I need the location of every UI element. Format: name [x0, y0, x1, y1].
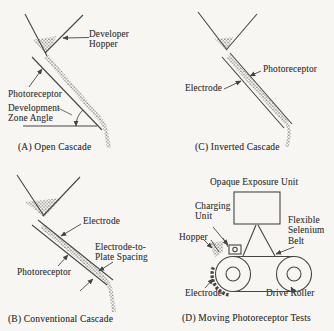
spacing-arrow-lower [80, 279, 93, 291]
developer-pile-b [25, 198, 62, 217]
opaque-exposure-unit-box [234, 192, 280, 224]
label-electrode-b: Electrode [83, 216, 120, 226]
caption-d: (D) Moving Photoreceptor Tests [182, 313, 311, 323]
development-zone-leader [58, 108, 72, 115]
hopper-particles-d [209, 241, 223, 257]
left-roller-axle [226, 267, 240, 281]
hopper-right-wall-a [45, 15, 83, 53]
electrode-arrow-c [224, 81, 241, 89]
label-developer-hopper: Developer Hopper [89, 29, 129, 50]
development-zone-angle-arc [76, 110, 83, 126]
light-path-right [258, 225, 275, 256]
label-photoreceptor-b: Photoreceptor [17, 267, 71, 277]
label-electrode-d: Electrode [185, 288, 222, 298]
label-electrode-to-plate-spacing: Electrode-to- Plate Spacing [95, 242, 148, 263]
developer-hopper-arrow [63, 38, 89, 39]
photoreceptor-arrow-a [29, 69, 42, 87]
light-path-left [243, 225, 256, 256]
caption-b: (B) Conventional Cascade [8, 314, 113, 324]
developer-pile-c [215, 37, 233, 51]
label-flexible-selenium-belt: Flexible Selenium Belt [288, 215, 324, 246]
photoreceptor-arrow-c [250, 71, 261, 76]
charging-unit-dot [233, 247, 237, 251]
hopper-right-wall-c [227, 14, 257, 49]
drive-roller-circle [277, 257, 312, 292]
falling-stream-b [103, 277, 114, 312]
falling-stream-a [99, 118, 109, 148]
caption-a: (A) Open Cascade [18, 142, 91, 152]
electrode-arrow-b [61, 224, 81, 236]
label-opaque-exposure-unit: Opaque Exposure Unit [210, 177, 298, 187]
label-drive-roller: Drive Roller [266, 288, 315, 298]
label-photoreceptor-a: Photoreceptor [8, 89, 62, 99]
drive-roller-axle [287, 267, 301, 281]
label-charging-unit: Charging Unit [195, 201, 231, 222]
electrode-arrow-d [205, 279, 213, 288]
label-electrode-c: Electrode [185, 83, 222, 93]
caption-c: (C) Inverted Cascade [195, 142, 280, 152]
spacing-arrow-upper [99, 262, 113, 271]
panel-c-inverted-cascade [198, 12, 292, 147]
label-development-zone-angle: Development Zone Angle [8, 103, 60, 124]
falling-stream-c [286, 122, 289, 147]
cascade-development-figure: Developer Hopper Photoreceptor Developme… [0, 0, 334, 331]
label-hopper-d: Hopper [179, 232, 208, 242]
diagram-linework [0, 0, 334, 331]
photoreceptor-arrow-b [58, 255, 68, 266]
charging-unit-box [229, 245, 241, 254]
left-roller [216, 257, 251, 292]
label-photoreceptor-c: Photoreceptor [263, 64, 317, 74]
selenium-belt-arrow [276, 247, 294, 254]
